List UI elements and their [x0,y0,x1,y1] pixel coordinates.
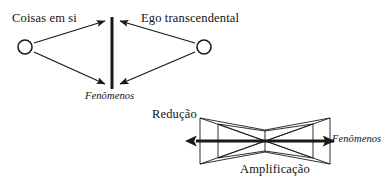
rail-inner-right-top [265,124,313,131]
figure-root: Coisas em si Ego transcendental Fenômeno… [0,0,389,185]
label-ego-transcendental: Ego transcendental [141,12,239,25]
node-coisas-em-si [18,40,32,54]
node-ego-transcendental [197,40,211,54]
label-fenomenos-right: Fenômenos [332,134,381,145]
arrow-coisas-to-bottom [34,52,105,84]
rail-inner-left-top [218,124,265,131]
arrow-ego-to-bottom [120,52,195,84]
rail-inner-right-bottom [265,151,313,158]
rail-outer-left-top [200,118,265,130]
rail-outer-right-top [265,118,330,130]
label-amplificacao: Amplificação [240,163,310,176]
diagram-right-group [196,118,334,164]
diagram-left-group [18,17,211,89]
label-reducao: Redução [152,108,197,121]
diagram-canvas [0,0,389,185]
rail-inner-left-bottom [218,151,265,158]
label-fenomenos-center: Fenômenos [85,91,134,102]
label-coisas-em-si: Coisas em si [12,12,77,25]
